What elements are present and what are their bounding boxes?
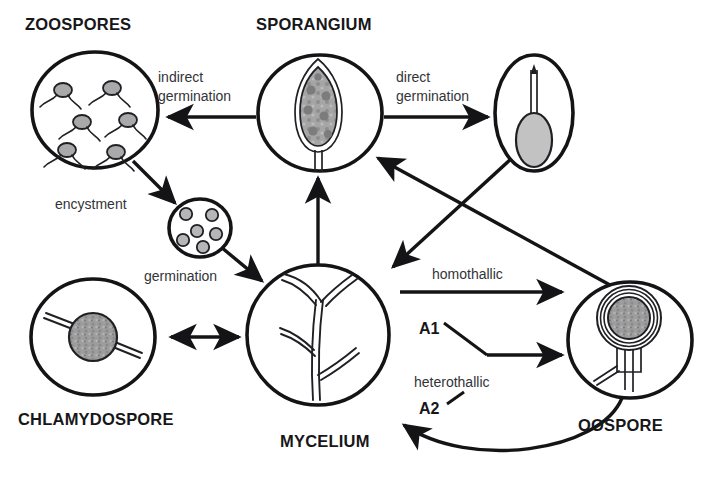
label-direct-germination-line1: direct [396,69,430,85]
mycelium-circle [247,265,389,405]
label-zoospores: ZOOSPORES [25,15,131,33]
arrow-germination [221,247,262,281]
label-mating-type-a2: A2 [419,400,440,417]
label-encystment: encystment [55,196,127,212]
arrow-encystment [133,161,175,203]
stage-cyst[interactable] [169,199,231,257]
label-germination: germination [144,268,217,284]
stage-sporangium[interactable] [258,55,382,172]
stage-mycelium[interactable] [247,265,389,405]
label-mating-type-a1: A1 [419,320,440,337]
label-chlamydospore: CHLAMYDOSPORE [18,410,174,428]
label-mycelium: MYCELIUM [280,432,370,450]
life-cycle-diagram: ZOOSPORES SPORANGIUM CHLAMYDOSPORE MYCEL… [0,0,705,477]
zoospores-circle [32,52,158,168]
label-homothallic: homothallic [432,266,503,282]
label-indirect-germination-line1: indirect [158,69,203,85]
label-heterothallic: heterothallic [414,374,490,390]
diagram-canvas: ZOOSPORES SPORANGIUM CHLAMYDOSPORE MYCEL… [0,0,705,477]
label-indirect-germination-line2: germination [158,88,231,104]
line-a2-feeder [447,392,464,404]
stage-chlamydospore[interactable] [31,279,155,395]
stage-zoospores[interactable] [32,52,158,171]
stage-oospore[interactable] [568,282,692,398]
label-oospore: OOSPORE [578,416,663,434]
label-sporangium: SPORANGIUM [256,15,372,33]
label-direct-germination-line2: germination [396,88,469,104]
stage-germinated-cyst[interactable] [495,55,573,171]
line-a1-feeder [444,323,487,355]
